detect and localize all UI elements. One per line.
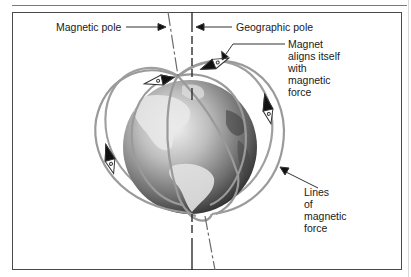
magnet-aligns-line: magnetic [288, 74, 358, 86]
arrow-left-icon [196, 24, 204, 31]
field-lines-line: of [304, 198, 374, 210]
magnet-aligns-label: Magnet aligns itself with magnetic force [288, 38, 358, 98]
field-lines-line: force [304, 222, 374, 234]
magnet-aligns-line: with [288, 62, 358, 74]
geographic-pole-label: Geographic pole [236, 21, 313, 33]
arrow-right-icon [158, 24, 166, 31]
field-lines-line: Lines [304, 186, 374, 198]
arrow-up-left-icon [280, 167, 289, 175]
magnet-aligns-line: force [288, 86, 358, 98]
field-lines-line: magnetic [304, 210, 374, 222]
magnet-aligns-line: Magnet [288, 38, 358, 50]
field-lines-label: Lines of magnetic force [304, 186, 374, 234]
magnet-aligns-line: aligns itself [288, 50, 358, 62]
magnetic-pole-label: Magnetic pole [56, 21, 121, 33]
